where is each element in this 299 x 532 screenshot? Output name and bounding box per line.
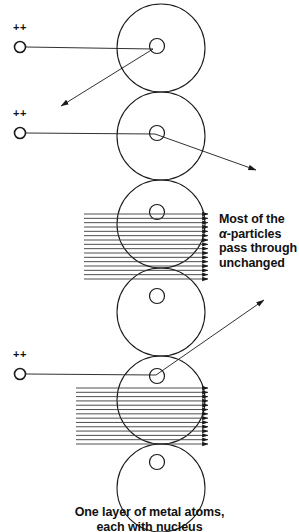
incident-alpha-particles: ++++++ <box>13 21 27 380</box>
alpha-1-charge-label: ++ <box>13 21 27 33</box>
atom-1-shell <box>117 4 205 92</box>
alpha-2-charge-label: ++ <box>13 107 27 119</box>
most-label-line-2: α-particles <box>219 227 299 242</box>
most-label-line-4: unchanged <box>219 256 299 271</box>
track-2-outgoing <box>155 134 256 170</box>
most-label-line-3: pass through <box>219 241 299 256</box>
most-label-line-1: Most of the <box>219 212 299 227</box>
atoms-column <box>117 4 205 532</box>
beam-bundles <box>76 214 208 444</box>
track-1-incoming <box>26 47 153 49</box>
alpha-3-circle <box>15 369 26 380</box>
track-3-incoming <box>26 374 156 375</box>
atom-1-nucleus <box>150 39 165 54</box>
atom-4-nucleus <box>150 289 165 304</box>
alpha-3-charge-label: ++ <box>13 348 27 360</box>
alpha-2-circle <box>15 128 26 139</box>
figure-caption: One layer of metal atoms, each with nucl… <box>0 505 299 532</box>
caption-line-1: One layer of metal atoms, <box>0 505 299 520</box>
atom-2-nucleus <box>150 126 165 141</box>
atom-3-nucleus <box>150 205 165 220</box>
alpha-symbol: α <box>219 227 227 241</box>
particles-word: -particles <box>227 227 282 241</box>
caption-line-2: each with nucleus <box>0 520 299 532</box>
track-3-outgoing <box>156 300 264 375</box>
atom-4-shell <box>117 268 205 356</box>
track-2-incoming <box>26 133 155 134</box>
most-pass-through-label: Most of the α-particles pass through unc… <box>219 212 299 270</box>
atom-3-shell <box>117 180 205 268</box>
alpha-1-circle <box>15 42 26 53</box>
scattered-tracks <box>26 47 264 375</box>
atom-6-nucleus <box>150 455 165 470</box>
